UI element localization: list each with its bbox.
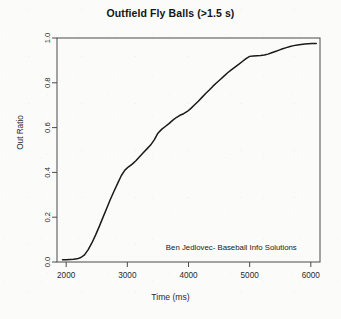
plot-frame (57, 38, 320, 262)
x-axis-ticks: 20003000400050006000 (57, 262, 320, 280)
y-tick-label: 0.0 (43, 257, 52, 268)
x-tick-label: 6000 (302, 271, 321, 280)
y-tick-label: 0.6 (43, 122, 52, 133)
y-tick-label: 0.8 (43, 78, 52, 89)
x-tick-label: 3000 (118, 271, 137, 280)
data-series-layer (63, 43, 317, 259)
credit-annotation: Ben Jedlovec- Baseball Info Solutions (166, 243, 297, 252)
annotation-layer: Ben Jedlovec- Baseball Info Solutions (166, 243, 297, 252)
y-tick-label: 1.0 (43, 33, 52, 44)
chart-figure: Outfield Fly Balls (>1.5 s) Out Ratio Ti… (0, 0, 341, 319)
x-tick-label: 5000 (241, 271, 260, 280)
x-tick-label: 4000 (179, 271, 198, 280)
plot-area: 0.00.20.40.60.81.0 20003000400050006000 … (0, 0, 341, 319)
x-tick-label: 2000 (57, 271, 76, 280)
data-line-out-ratio (63, 43, 317, 259)
y-tick-label: 0.2 (43, 212, 52, 223)
y-axis-ticks: 0.00.20.40.60.81.0 (43, 33, 57, 268)
y-tick-label: 0.4 (43, 167, 52, 178)
